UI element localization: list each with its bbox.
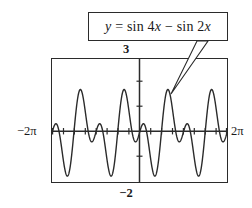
y-max-label: 3 (0, 43, 252, 56)
y-min-label: −2 (0, 187, 252, 200)
x-max-label: 2π (231, 125, 244, 138)
equation-x-symbol-2: x (205, 19, 211, 34)
equation-part-1: = sin 4 (111, 19, 154, 34)
x-min-label: −2π (17, 125, 37, 138)
equation-label: y = sin 4x − sin 2x (105, 20, 211, 34)
equation-part-2: − sin 2 (161, 19, 204, 34)
function-graph-figure: y = sin 4x − sin 2x (0, 0, 252, 208)
plot-viewing-window (51, 58, 228, 183)
equation-callout-box: y = sin 4x − sin 2x (88, 12, 228, 41)
